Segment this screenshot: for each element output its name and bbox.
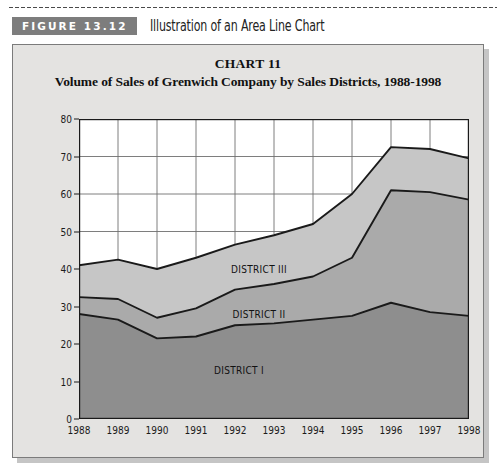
x-axis-tick-label: 1990 <box>146 425 169 436</box>
x-axis-tick-label: 1996 <box>380 425 403 436</box>
figure-caption: Illustration of an Area Line Chart <box>150 17 324 35</box>
x-axis-tick-label: 1993 <box>263 425 286 436</box>
y-axis-tick-mark <box>74 306 79 307</box>
y-axis-tick-mark <box>74 119 79 120</box>
x-axis-tick-label: 1988 <box>68 425 91 436</box>
y-axis-tick-label: 10 <box>61 376 72 387</box>
x-axis-tick-label: 1995 <box>341 425 364 436</box>
plot-area: $ millions 01020304050607080198819891990… <box>79 119 469 419</box>
chart-title: CHART 11 <box>13 56 483 72</box>
y-axis-tick-label: 50 <box>61 226 72 237</box>
x-axis-tick-label: 1997 <box>419 425 442 436</box>
y-axis-tick-label: 30 <box>61 301 72 312</box>
top-dotted-rule <box>8 6 497 9</box>
figure-header: FIGURE 13.12 Illustration of an Area Lin… <box>12 16 362 36</box>
area-chart-svg <box>79 119 469 419</box>
y-axis-tick-label: 60 <box>61 189 72 200</box>
y-axis-tick-mark <box>74 269 79 270</box>
y-axis-tick-mark <box>74 381 79 382</box>
x-axis-tick-label: 1994 <box>302 425 325 436</box>
figure-panel: CHART 11 Volume of Sales of Grenwich Com… <box>12 44 484 458</box>
chart-title-block: CHART 11 Volume of Sales of Grenwich Com… <box>13 56 483 90</box>
x-axis-tick-label: 1989 <box>107 425 130 436</box>
x-axis-tick-label: 1991 <box>185 425 208 436</box>
y-axis-tick-label: 20 <box>61 339 72 350</box>
y-axis-tick-mark <box>74 194 79 195</box>
x-axis-tick-label: 1998 <box>458 425 481 436</box>
figure-number-tag: FIGURE 13.12 <box>12 17 137 35</box>
y-axis-tick-mark <box>74 231 79 232</box>
y-axis-tick-mark <box>74 419 79 420</box>
chart-subtitle: Volume of Sales of Grenwich Company by S… <box>13 74 483 90</box>
y-axis-tick-label: 0 <box>66 414 72 425</box>
x-axis-tick-label: 1992 <box>224 425 247 436</box>
y-axis-tick-label: 70 <box>61 151 72 162</box>
y-axis-tick-mark <box>74 344 79 345</box>
y-axis-tick-label: 40 <box>61 264 72 275</box>
y-axis-tick-mark <box>74 156 79 157</box>
y-axis-tick-label: 80 <box>61 114 72 125</box>
